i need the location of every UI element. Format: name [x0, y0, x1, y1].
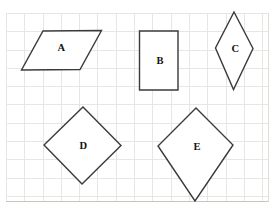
shape-label-D: D: [80, 140, 88, 151]
shape-label-E: E: [193, 141, 200, 152]
shape-E-kite: [158, 108, 233, 201]
shape-label-C: C: [232, 43, 240, 54]
shapes-layer: ABCDE: [0, 0, 274, 208]
worksheet-canvas: ABCDE: [0, 0, 274, 208]
shape-label-B: B: [156, 55, 163, 66]
shape-label-A: A: [58, 42, 66, 53]
